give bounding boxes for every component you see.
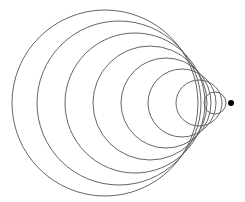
wavefront-circle-6 <box>148 69 216 137</box>
source-point <box>228 100 234 106</box>
nested-circles-diagram <box>0 0 245 202</box>
wavefront-circle-1 <box>12 10 198 196</box>
wavefront-circle-4 <box>93 46 207 160</box>
wavefront-circles <box>12 10 226 196</box>
